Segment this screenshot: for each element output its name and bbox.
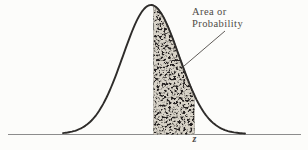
area-label-line1: Area or	[192, 6, 243, 18]
area-probability-label: Area or Probability	[192, 6, 243, 29]
normal-curve-figure: Area or Probability z	[0, 0, 308, 150]
axis-z-label: z	[188, 133, 201, 147]
area-label-line2: Probability	[192, 18, 243, 30]
normal-curve-plot	[0, 0, 308, 150]
